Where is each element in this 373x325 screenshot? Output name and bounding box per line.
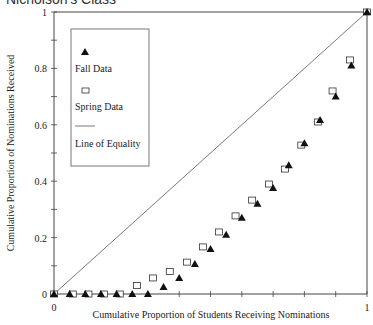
spring-data-point [249,197,256,203]
y-tick-label: 1 [42,7,47,18]
y-axis-label: Cumulative Proportion of Nominations Rec… [5,55,16,252]
spring-data-point [199,244,206,250]
legend-equality-label: Line of Equality [75,138,141,149]
legend-fall-label: Fall Data [75,63,112,74]
fall-data-point [191,260,199,267]
y-tick-label: 0.2 [35,233,48,244]
fall-data-point [222,231,230,238]
spring-data-point [232,213,239,219]
x-tick-label: 0 [52,302,57,313]
spring-data-point [215,229,222,235]
spring-data-point [329,88,336,94]
legend-spring-label: Spring Data [75,101,124,112]
x-axis-label: Cumulative Proportion of Students Receiv… [93,309,330,320]
spring-data-point [266,181,273,187]
y-tick-label: 0.8 [35,63,48,74]
y-tick-label: 0.6 [35,120,48,131]
fall-data-point [285,161,293,168]
y-tick-label: 0.4 [35,176,48,187]
spring-data-point [133,283,140,289]
y-tick-label: 0 [42,289,47,300]
spring-data-point [166,268,173,274]
fall-data-point [175,274,183,281]
square-icon [82,88,89,93]
spring-data-point [347,57,354,63]
fall-data-point [160,283,168,290]
spring-data-point [184,259,191,265]
x-tick-label: 1 [365,302,370,313]
fall-data-point [207,245,215,252]
legend: Fall Data Spring Data Line of Equality [71,29,149,166]
spring-data-point [149,275,156,281]
lorenz-chart: 00.20.40.60.8101 Fall Data Spring Data L… [0,0,373,325]
